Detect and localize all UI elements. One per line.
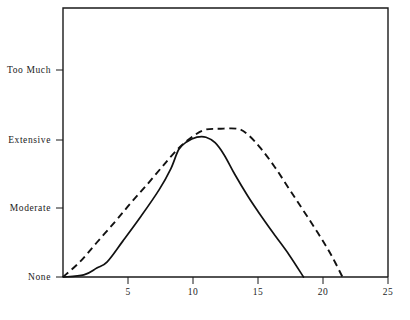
x-label-25: 25 [383,287,394,297]
chart-figure: Too Much Extensive Moderate None 5 10 15… [0,0,410,320]
x-label-20: 20 [318,287,329,297]
frame-border [63,8,388,277]
x-label-15: 15 [253,287,264,297]
line-chart: Too Much Extensive Moderate None 5 10 15… [0,0,410,320]
y-axis-labels: Too Much Extensive Moderate None [7,65,51,282]
series-dashed-curve [63,128,343,277]
plot-frame [63,8,388,277]
y-label-too-much: Too Much [7,65,51,75]
x-label-10: 10 [188,287,199,297]
y-label-moderate: Moderate [10,203,51,213]
x-axis-ticks [128,277,388,284]
y-label-extensive: Extensive [8,135,51,145]
x-label-5: 5 [125,287,130,297]
y-axis-ticks [56,70,63,277]
x-axis-labels: 5 10 15 20 25 [125,287,393,297]
data-series-group [63,128,343,277]
y-label-none: None [28,272,51,282]
